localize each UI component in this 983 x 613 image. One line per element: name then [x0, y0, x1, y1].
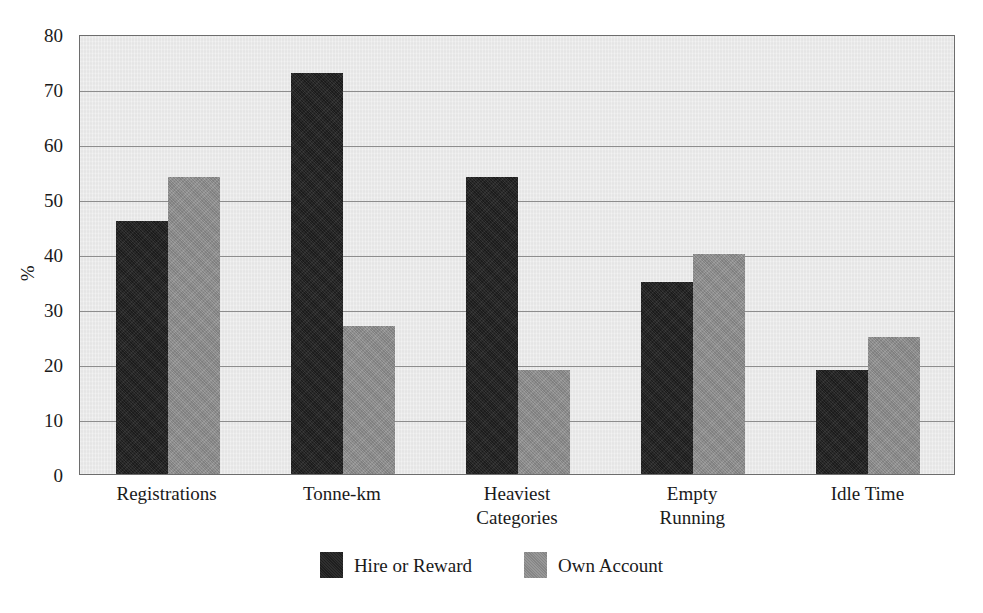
- bar-registrations-hire-or-reward: [116, 221, 168, 474]
- y-axis-tick-50: 50: [0, 191, 72, 210]
- bar-tonne-km-hire-or-reward: [291, 73, 343, 475]
- y-axis-tick-20: 20: [0, 356, 72, 375]
- y-axis-tick-labels: 80706050403020100: [0, 35, 72, 475]
- chart-legend: Hire or RewardOwn Account: [0, 552, 983, 578]
- x-axis-label-0: Registrations: [83, 482, 250, 506]
- y-axis-tick-10: 10: [0, 411, 72, 430]
- x-axis-label-4: Idle Time: [784, 482, 951, 506]
- bar-heaviest-categories-hire-or-reward: [466, 177, 518, 474]
- bar-idle-time-own-account: [868, 337, 920, 475]
- y-axis-tick-40: 40: [0, 246, 72, 265]
- bar-registrations-own-account: [168, 177, 220, 474]
- bar-chart: % 80706050403020100 RegistrationsTonne-k…: [0, 0, 983, 613]
- legend-label: Own Account: [558, 556, 663, 575]
- bars-layer: [80, 36, 954, 474]
- bar-empty-running-own-account: [693, 254, 745, 474]
- legend-swatch-icon: [524, 552, 547, 578]
- y-axis-tick-60: 60: [0, 136, 72, 155]
- legend-item-hire-or-reward[interactable]: Hire or Reward: [320, 552, 472, 578]
- legend-swatch-icon: [320, 552, 343, 578]
- bar-heaviest-categories-own-account: [518, 370, 570, 475]
- x-axis-label-3: Empty Running: [609, 482, 776, 530]
- plot-area: [79, 35, 955, 475]
- legend-label: Hire or Reward: [354, 556, 472, 575]
- y-axis-tick-30: 30: [0, 301, 72, 320]
- y-axis-tick-0: 0: [0, 466, 72, 485]
- x-axis-tick-labels: RegistrationsTonne-kmHeaviest Categories…: [79, 482, 955, 544]
- bar-tonne-km-own-account: [343, 326, 395, 475]
- bar-empty-running-hire-or-reward: [641, 282, 693, 475]
- legend-item-own-account[interactable]: Own Account: [524, 552, 663, 578]
- y-axis-tick-80: 80: [0, 26, 72, 45]
- x-axis-label-2: Heaviest Categories: [433, 482, 600, 530]
- x-axis-label-1: Tonne-km: [258, 482, 425, 506]
- y-axis-tick-70: 70: [0, 81, 72, 100]
- bar-idle-time-hire-or-reward: [816, 370, 868, 475]
